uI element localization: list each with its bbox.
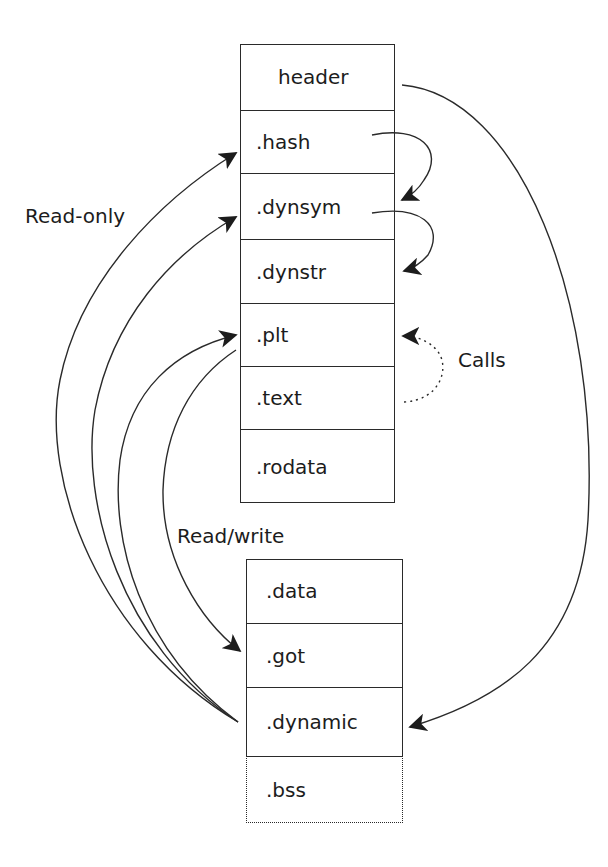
section-plt: .plt	[240, 304, 395, 367]
section-label: .hash	[256, 132, 310, 152]
arrow-dynamic-to-hash	[56, 153, 238, 722]
section-label: .data	[266, 581, 317, 601]
section-label: .dynamic	[266, 712, 358, 732]
readwrite-segment: .data .got .dynamic .bss	[246, 559, 403, 823]
arrow-text-to-plt	[403, 336, 443, 402]
section-bss: .bss	[246, 756, 403, 823]
section-label: header	[278, 67, 348, 87]
arrow-plt-to-got	[163, 350, 240, 651]
section-header: header	[240, 44, 395, 111]
section-got: .got	[246, 624, 403, 688]
section-data: .data	[246, 559, 403, 624]
section-dynamic: .dynamic	[246, 688, 403, 756]
section-label: .got	[266, 646, 305, 666]
section-label: .bss	[266, 780, 306, 800]
section-label: .dynsym	[256, 197, 341, 217]
read-write-label: Read/write	[177, 524, 284, 548]
read-only-label: Read-only	[25, 204, 125, 228]
section-dynsym: .dynsym	[240, 174, 395, 240]
section-dynstr: .dynstr	[240, 240, 395, 304]
section-label: .rodata	[256, 457, 327, 477]
section-text: .text	[240, 367, 395, 430]
calls-label: Calls	[458, 348, 506, 372]
arrow-header-to-dynamic	[402, 85, 589, 727]
section-label: .plt	[256, 325, 288, 345]
section-rodata: .rodata	[240, 430, 395, 503]
readonly-segment: header .hash .dynsym .dynstr .plt .text …	[240, 44, 395, 503]
section-hash: .hash	[240, 111, 395, 174]
section-label: .dynstr	[256, 262, 326, 282]
section-label: .text	[256, 388, 302, 408]
